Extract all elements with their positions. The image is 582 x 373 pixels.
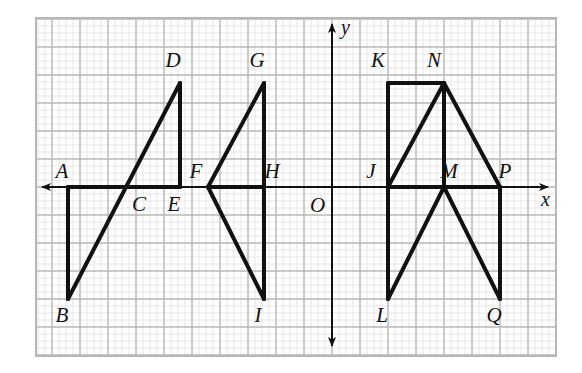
- point-label-l: L: [375, 303, 388, 327]
- point-label-q: Q: [486, 303, 501, 327]
- point-label-i: I: [254, 303, 263, 327]
- point-label-f: F: [189, 159, 203, 183]
- point-label-c: C: [132, 192, 147, 216]
- point-label-e: E: [167, 192, 181, 216]
- x-axis-label: x: [540, 188, 550, 210]
- point-label-b: B: [56, 303, 69, 327]
- point-label-h: H: [263, 159, 281, 183]
- point-label-d: D: [164, 48, 180, 72]
- point-label-m: M: [439, 159, 459, 183]
- point-label-g: G: [249, 48, 264, 72]
- point-label-a: A: [54, 159, 69, 183]
- point-label-p: P: [498, 159, 512, 183]
- coordinate-figure: ABCDEFGHIJKLMNPQ x y O: [0, 0, 582, 373]
- point-label-k: K: [370, 48, 386, 72]
- y-axis-label: y: [339, 16, 350, 39]
- origin-label: O: [310, 193, 325, 217]
- point-label-n: N: [426, 48, 442, 72]
- geometry-diagram-svg: ABCDEFGHIJKLMNPQ x y O: [0, 0, 582, 373]
